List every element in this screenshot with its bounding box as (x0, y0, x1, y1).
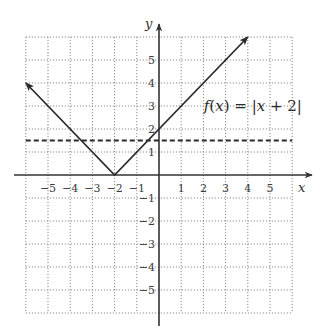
y-tick-label: 5 (148, 54, 155, 67)
y-tick-label: −4 (139, 261, 155, 274)
y-tick-label: −5 (139, 284, 155, 297)
y-tick-label: 4 (148, 77, 155, 90)
x-tick-label: 4 (244, 182, 251, 195)
x-tick-label: 3 (222, 182, 229, 195)
x-tick-label: −2 (106, 182, 122, 195)
x-tick-label: −5 (40, 182, 56, 195)
y-tick-label: −2 (139, 215, 155, 228)
x-tick-label: −4 (62, 182, 78, 195)
coordinate-plane: xy −5−4−3−2−112345−5−4−3−2−112345 f(x) =… (0, 0, 328, 335)
y-tick-label: 1 (148, 146, 155, 159)
y-tick-label: −3 (139, 238, 155, 251)
x-tick-label: 2 (200, 182, 207, 195)
x-tick-label: −3 (84, 182, 100, 195)
x-tick-label: 1 (178, 182, 185, 195)
y-axis-label: y (144, 16, 153, 31)
x-axis-label: x (298, 180, 306, 195)
axes: xy (14, 16, 312, 326)
x-tick-label: 5 (267, 182, 274, 195)
function-label: f(x) = |x + 2| (203, 97, 302, 115)
y-tick-label: 3 (148, 100, 155, 113)
y-tick-label: −1 (139, 192, 155, 205)
